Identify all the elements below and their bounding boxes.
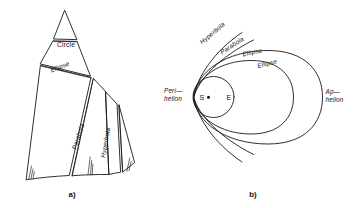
cone-slice-circle [54,11,77,40]
cone-label-circle: Circle [57,41,75,48]
perihelion-label-line2: helion [164,95,182,102]
orbit-label-ellipse-inner: Ellipse [257,57,279,70]
earth-label: E [227,94,232,101]
conic-sections-figure: Circle Ellipse Parabola Hyperbola a) S E… [0,0,355,208]
base-hatching-right [127,158,131,171]
cone-label-parabola: Parabola [70,122,85,150]
aphelion-label-line1: Ap— [325,88,341,96]
cone-slice-parabola [27,65,92,179]
cone-slice-hyperbola-outer [119,105,135,172]
base-hatching-left [29,166,35,179]
base-hatching-center [88,157,93,175]
caption-b: b) [249,190,257,199]
panel-b-orbits: S E Hyperbola Parabola Ellipse Ellipse P… [164,20,344,198]
trajectory-parabola-lower [194,98,254,154]
orbit-label-hyperbola: Hyperbola [198,20,227,46]
aphelion-label-line2: helion [326,96,344,103]
caption-a: a) [68,190,75,199]
orbit-label-ellipse-outer: Ellipse [242,46,263,58]
cone-label-hyperbola: Hyperbola [99,127,112,159]
panel-a-cone: Circle Ellipse Parabola Hyperbola a) [27,11,135,199]
perihelion-label-line1: Peri— [164,87,183,94]
sun-marker [207,96,210,99]
sun-label: S [200,94,205,101]
